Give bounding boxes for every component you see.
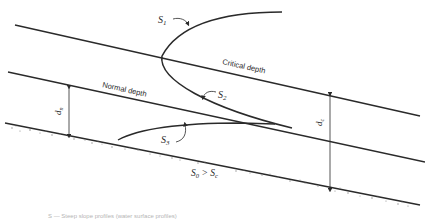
dc-label: dc	[314, 119, 325, 127]
s3-label: S3	[161, 134, 170, 147]
figure-caption: S — Steep slope profiles (water surface …	[48, 213, 177, 219]
normal-depth-label: Normal depth	[102, 80, 148, 99]
s2-label: S2	[218, 89, 227, 102]
channel-bed-line	[5, 123, 420, 205]
slope-condition-label: S0 > Sc	[191, 168, 218, 179]
s3-leader	[176, 124, 186, 142]
dn-label: dn	[53, 108, 64, 116]
normal-depth-line	[8, 72, 425, 162]
ground-texture	[11, 126, 408, 207]
critical-depth-line	[15, 25, 420, 116]
s2-leader	[203, 91, 216, 98]
steep-slope-profile-diagram: S1 S2 S3 Critical depth Normal depth dn …	[0, 0, 425, 219]
s1-leader	[173, 18, 188, 24]
s1-label: S1	[158, 14, 167, 27]
s3-curve	[118, 123, 275, 140]
